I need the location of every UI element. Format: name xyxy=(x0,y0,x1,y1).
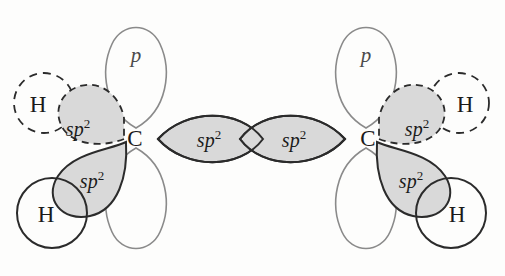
diagram-canvas: p H sp2 sp2 H C sp2 xyxy=(0,0,505,276)
carbon-left-label: C xyxy=(127,126,142,151)
sp2-left-back: sp2 xyxy=(58,85,124,144)
hydrogen-left-front-label: H xyxy=(38,202,55,227)
sp2-right-back: sp2 xyxy=(379,85,445,144)
hydrogen-right-back-label: H xyxy=(457,92,474,117)
p-orbital-left-top-label: p xyxy=(129,43,142,67)
carbon-right-label: C xyxy=(360,126,375,151)
hydrogen-right-front-label: H xyxy=(449,202,466,227)
orbital-diagram: p H sp2 sp2 H C sp2 xyxy=(0,0,505,276)
p-orbital-right-top-label: p xyxy=(359,43,372,67)
hydrogen-left-back-label: H xyxy=(30,92,47,117)
